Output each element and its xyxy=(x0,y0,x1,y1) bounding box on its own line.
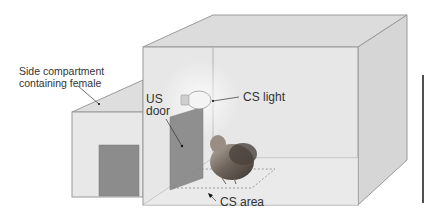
cs-area-label: CS area xyxy=(220,196,264,209)
side-compartment-leader-dot xyxy=(98,103,100,105)
main-chamber xyxy=(143,15,407,205)
main-chamber-side xyxy=(358,15,407,205)
side-compartment-label-line2: containing female xyxy=(19,77,101,89)
cs-light-label: CS light xyxy=(243,91,285,104)
side-compartment xyxy=(72,80,143,197)
apparatus-diagram xyxy=(0,0,429,218)
side-compartment-label-line1: Side compartment xyxy=(19,65,104,77)
figure: Side compartment containing female US do… xyxy=(0,0,429,218)
cs-light-leader-dot xyxy=(212,100,214,102)
us-door-label-line2: door xyxy=(146,105,170,118)
side-compartment-door xyxy=(99,145,139,196)
